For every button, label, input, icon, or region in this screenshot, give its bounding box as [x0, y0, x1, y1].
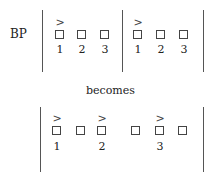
box	[156, 30, 165, 39]
box	[52, 126, 61, 135]
marker-gt: >	[51, 113, 63, 124]
box-number: 2	[96, 141, 108, 152]
box	[55, 30, 64, 39]
bar-left	[42, 10, 43, 72]
bar-left	[40, 107, 41, 172]
box-number: 1	[54, 44, 66, 55]
box	[178, 126, 187, 135]
box	[133, 30, 142, 39]
bp-label: BP	[10, 27, 27, 41]
box	[131, 126, 140, 135]
box-number: 2	[76, 44, 88, 55]
box	[155, 126, 164, 135]
box-number: 3	[99, 44, 111, 55]
box	[97, 126, 106, 135]
becomes-text: becomes	[86, 84, 135, 98]
box	[76, 126, 85, 135]
box	[100, 30, 109, 39]
bar-right	[203, 107, 204, 172]
box-number: 1	[132, 44, 144, 55]
box-number: 3	[178, 44, 190, 55]
box-number: 1	[51, 141, 63, 152]
box-number: 3	[154, 141, 166, 152]
bar-right	[203, 10, 204, 72]
marker-gt: >	[54, 17, 66, 28]
box	[77, 30, 86, 39]
marker-gt: >	[132, 17, 144, 28]
marker-gt: >	[96, 113, 108, 124]
bar-middle	[122, 10, 123, 72]
marker-gt: >	[154, 113, 166, 124]
box-number: 2	[155, 44, 167, 55]
box	[179, 30, 188, 39]
